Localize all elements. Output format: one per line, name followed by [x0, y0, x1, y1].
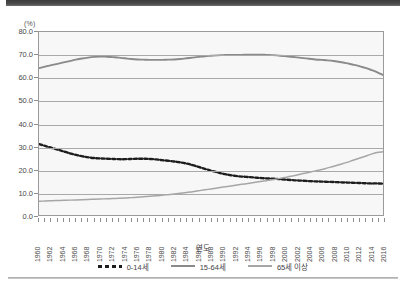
chart-legend: 0-14세15-64세65세 이상 — [0, 258, 406, 274]
legend-item[interactable]: 0-14세 — [98, 261, 149, 272]
x-axis-tick — [81, 218, 82, 222]
y-axis-tick-label: 10.0 — [18, 188, 33, 197]
x-axis-tick — [248, 218, 249, 222]
y-axis-tick-label: 70.0 — [18, 50, 33, 59]
x-axis-tick — [328, 218, 329, 222]
legend-item[interactable]: 15-64세 — [171, 261, 226, 272]
x-axis-tick — [199, 218, 200, 222]
y-axis-tick-label: 40.0 — [18, 119, 33, 128]
x-axis-tick — [205, 218, 206, 222]
grid-line — [39, 194, 383, 195]
bottom-divider — [8, 277, 398, 279]
x-axis-tick — [353, 218, 354, 222]
x-axis-tick — [291, 218, 292, 222]
x-axis-title: 연도 — [0, 242, 406, 253]
x-axis-tick — [106, 218, 107, 222]
x-axis-tick — [359, 218, 360, 222]
x-axis-tick — [230, 218, 231, 222]
x-axis-tick — [125, 218, 126, 222]
grid-line — [39, 148, 383, 149]
x-axis-tick — [285, 218, 286, 222]
y-axis-tick-label: 50.0 — [18, 96, 33, 105]
series-svg — [39, 32, 383, 215]
legend-label: 0-14세 — [127, 261, 149, 272]
x-axis-tick — [50, 218, 51, 222]
legend-item[interactable]: 65세 이상 — [248, 261, 308, 272]
x-axis-tick — [254, 218, 255, 222]
x-axis-tick — [63, 218, 64, 222]
x-axis-tick — [273, 218, 274, 222]
x-axis-tick — [87, 218, 88, 222]
x-axis-tick — [341, 218, 342, 222]
x-axis-tick — [260, 218, 261, 222]
x-axis-tick — [279, 218, 280, 222]
population-age-structure-chart: (%) 0.010.020.030.040.050.060.070.080.0 … — [0, 6, 406, 277]
y-axis-tick — [34, 216, 38, 217]
legend-swatch-icon — [171, 265, 195, 267]
chart-page: (%) 0.010.020.030.040.050.060.070.080.0 … — [0, 0, 406, 291]
x-axis-tick — [242, 218, 243, 222]
x-axis-tick — [267, 218, 268, 222]
x-axis-tick — [131, 218, 132, 222]
x-axis-tick — [223, 218, 224, 222]
grid-line — [39, 78, 383, 79]
x-axis-tick — [149, 218, 150, 222]
x-axis-tick — [310, 218, 311, 222]
x-axis-tick — [118, 218, 119, 222]
plot-area — [38, 31, 384, 216]
legend-label: 15-64세 — [200, 261, 226, 272]
x-axis-tick — [335, 218, 336, 222]
x-axis-tick — [192, 218, 193, 222]
x-axis-tick — [180, 218, 181, 222]
x-axis-tick — [304, 218, 305, 222]
x-axis-tick — [174, 218, 175, 222]
grid-line — [39, 101, 383, 102]
legend-swatch-icon — [98, 265, 122, 268]
x-axis-tick — [316, 218, 317, 222]
x-axis-tick — [217, 218, 218, 222]
x-axis-tick — [137, 218, 138, 222]
x-axis-tick — [112, 218, 113, 222]
x-axis-tick — [38, 218, 39, 222]
grid-line — [39, 171, 383, 172]
x-axis-tick — [100, 218, 101, 222]
series-line — [39, 144, 383, 184]
x-axis-tick — [162, 218, 163, 222]
legend-swatch-icon — [248, 265, 272, 267]
y-axis-tick-label: 0.0 — [23, 212, 33, 221]
series-line — [39, 55, 383, 75]
x-axis-tick — [168, 218, 169, 222]
legend-label: 65세 이상 — [277, 261, 308, 272]
x-axis-tick — [372, 218, 373, 222]
x-axis-tick — [378, 218, 379, 222]
grid-line — [39, 125, 383, 126]
x-axis-tick — [69, 218, 70, 222]
x-axis-tick — [57, 218, 58, 222]
grid-line — [39, 55, 383, 56]
y-axis-tick-label: 30.0 — [18, 142, 33, 151]
x-axis-tick — [143, 218, 144, 222]
x-axis-tick — [75, 218, 76, 222]
x-axis-tick — [384, 218, 385, 222]
x-axis-tick — [322, 218, 323, 222]
x-axis-tick — [347, 218, 348, 222]
x-axis-tick — [186, 218, 187, 222]
y-axis-tick-label: 20.0 — [18, 165, 33, 174]
y-axis-tick-label: 80.0 — [18, 27, 33, 36]
x-axis-tick — [155, 218, 156, 222]
y-axis-labels: 0.010.020.030.040.050.060.070.080.0 — [0, 31, 36, 216]
x-axis-tick — [44, 218, 45, 222]
x-axis-tick — [298, 218, 299, 222]
x-axis-tick — [236, 218, 237, 222]
x-axis-tick — [211, 218, 212, 222]
x-axis-tick — [365, 218, 366, 222]
y-axis-tick-label: 60.0 — [18, 73, 33, 82]
x-axis-tick — [94, 218, 95, 222]
